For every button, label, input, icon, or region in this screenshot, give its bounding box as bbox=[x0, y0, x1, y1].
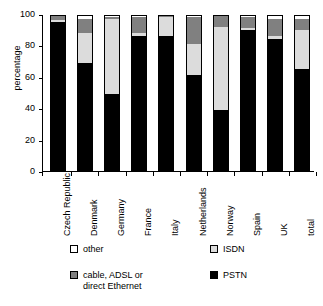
x-axis-labels: Czech RepublicDenmarkGermanyFranceItalyN… bbox=[42, 176, 314, 238]
segment-cable bbox=[241, 17, 255, 28]
segment-other bbox=[78, 15, 92, 19]
legend-label-pstn: PSTN bbox=[223, 270, 247, 281]
segment-cable bbox=[51, 16, 65, 21]
gray-square-icon bbox=[70, 271, 78, 279]
legend-item-other: other bbox=[70, 244, 104, 255]
segment-other bbox=[51, 15, 65, 16]
legend-item-pstn: PSTN bbox=[210, 270, 247, 281]
bar-czech-republic bbox=[50, 15, 66, 172]
segment-isdn bbox=[268, 36, 282, 39]
segment-pstn bbox=[295, 69, 309, 171]
bar-norway bbox=[213, 15, 229, 172]
segment-isdn bbox=[51, 20, 65, 22]
white-square-icon bbox=[70, 245, 78, 253]
chart-legend: other ISDN cable, ADSL ordirect Ethernet… bbox=[60, 244, 315, 302]
x-tick bbox=[316, 172, 317, 176]
segment-isdn bbox=[132, 33, 146, 36]
y-tick-label: 100 bbox=[13, 9, 35, 19]
bar-spain bbox=[240, 15, 256, 172]
y-tick-label: 20 bbox=[13, 135, 35, 145]
black-square-icon bbox=[210, 271, 218, 279]
segment-cable bbox=[78, 19, 92, 33]
bar-uk bbox=[267, 15, 283, 172]
segment-other bbox=[132, 15, 146, 17]
x-tick-label-uk: UK bbox=[279, 223, 289, 236]
segment-pstn bbox=[105, 94, 119, 171]
segment-cable bbox=[187, 17, 201, 44]
segment-isdn bbox=[295, 30, 309, 69]
segment-other bbox=[295, 15, 309, 19]
segment-pstn bbox=[187, 75, 201, 171]
y-tick: 40 bbox=[39, 109, 43, 110]
bar-france bbox=[131, 15, 147, 172]
y-tick: 100 bbox=[39, 15, 43, 16]
legend-label-cable-line1: cable, ADSL or bbox=[83, 270, 143, 280]
y-tick-label: 40 bbox=[13, 103, 35, 113]
plot-area: 020406080100 bbox=[42, 15, 314, 172]
segment-other bbox=[159, 15, 173, 16]
y-tick-label: 60 bbox=[13, 72, 35, 82]
x-tick-label-germany: Germany bbox=[116, 199, 126, 236]
x-tick-label-spain: Spain bbox=[252, 213, 262, 236]
bar-italy bbox=[158, 15, 174, 172]
x-tick-label-norway: Norway bbox=[225, 205, 235, 236]
x-tick-label-total: total bbox=[306, 219, 316, 236]
segment-cable bbox=[268, 19, 282, 36]
x-tick-label-denmark: Denmark bbox=[89, 199, 99, 236]
x-tick-label-france: France bbox=[143, 208, 153, 236]
segment-isdn bbox=[241, 28, 255, 30]
segment-isdn bbox=[78, 33, 92, 63]
segment-pstn bbox=[51, 22, 65, 171]
segment-isdn bbox=[159, 17, 173, 36]
legend-label-cable: cable, ADSL ordirect Ethernet bbox=[83, 270, 143, 292]
y-tick: 80 bbox=[39, 46, 43, 47]
segment-isdn bbox=[105, 19, 119, 94]
segment-other bbox=[187, 15, 201, 17]
segment-pstn bbox=[268, 39, 282, 171]
x-tick-label-czech-republic: Czech Republic bbox=[62, 173, 72, 236]
legend-label-cable-line2: direct Ethernet bbox=[83, 281, 142, 291]
segment-other bbox=[214, 15, 228, 16]
segment-pstn bbox=[159, 36, 173, 171]
segment-pstn bbox=[241, 30, 255, 171]
y-tick-label: 80 bbox=[13, 40, 35, 50]
y-tick: 60 bbox=[39, 78, 43, 79]
segment-isdn bbox=[214, 27, 228, 110]
x-tick-label-netherlands: Netherlands bbox=[198, 187, 208, 236]
y-tick-label: 0 bbox=[13, 166, 35, 176]
segment-cable bbox=[214, 16, 228, 27]
segment-other bbox=[241, 15, 255, 17]
y-axis-line bbox=[42, 15, 43, 172]
bar-netherlands bbox=[186, 15, 202, 172]
legend-item-isdn: ISDN bbox=[210, 244, 245, 255]
segment-pstn bbox=[214, 110, 228, 171]
segment-isdn bbox=[187, 44, 201, 75]
segment-other bbox=[268, 15, 282, 19]
light-gray-square-icon bbox=[210, 245, 218, 253]
stacked-bar-chart: percentage 020406080100 Czech RepublicDe… bbox=[0, 0, 323, 306]
segment-other bbox=[105, 15, 119, 17]
segment-cable bbox=[295, 19, 309, 30]
y-tick: 20 bbox=[39, 141, 43, 142]
legend-label-isdn: ISDN bbox=[223, 244, 245, 255]
segment-cable bbox=[132, 17, 146, 33]
legend-label-other: other bbox=[83, 244, 104, 255]
segment-cable bbox=[105, 17, 119, 19]
bar-germany bbox=[104, 15, 120, 172]
segment-pstn bbox=[132, 36, 146, 171]
segment-cable bbox=[159, 16, 173, 18]
bar-total bbox=[294, 15, 310, 172]
bar-denmark bbox=[77, 15, 93, 172]
legend-item-cable: cable, ADSL ordirect Ethernet bbox=[70, 270, 200, 292]
x-tick-label-italy: Italy bbox=[170, 219, 180, 236]
segment-pstn bbox=[78, 63, 92, 171]
